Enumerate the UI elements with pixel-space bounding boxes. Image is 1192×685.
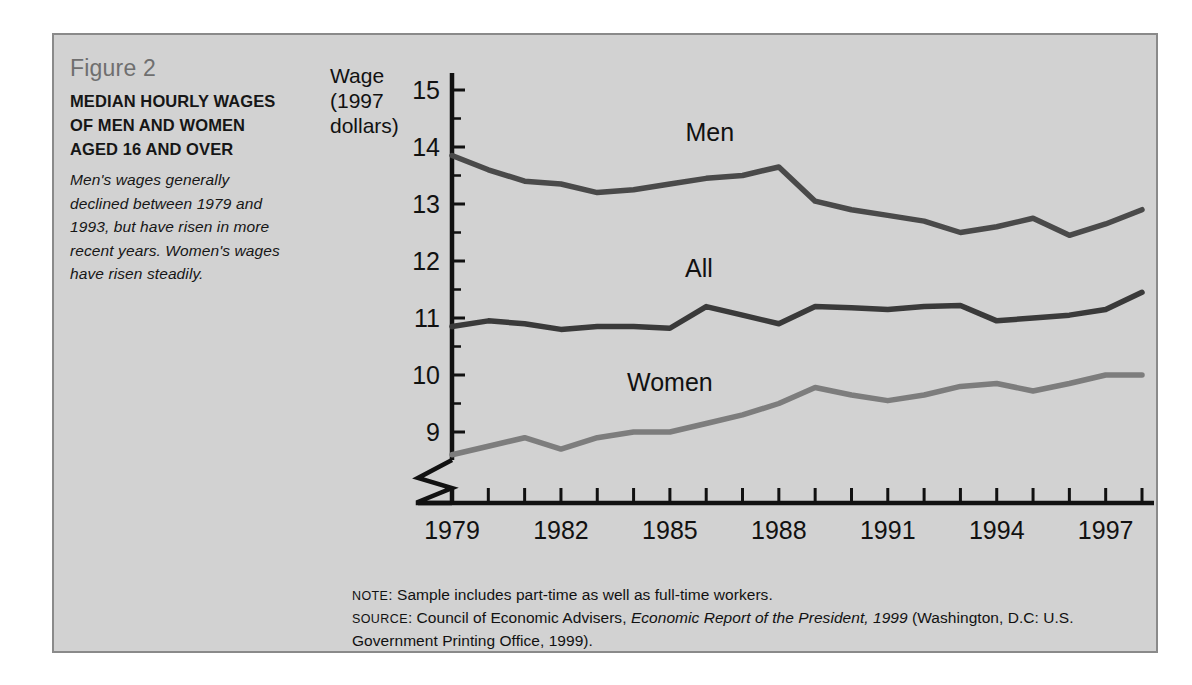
x-axis-tick-label: 1991	[860, 516, 916, 544]
chart-plot-area: 9101112131415197919821985198819911994199…	[318, 45, 1158, 565]
y-axis-tick-label: 14	[412, 133, 440, 161]
series-line-all	[452, 292, 1142, 329]
y-axis-tick-label: 9	[426, 418, 440, 446]
series-label-men: Men	[686, 118, 735, 146]
y-axis-tick-label: 12	[412, 247, 440, 275]
x-axis-tick-label: 1979	[424, 516, 480, 544]
figure-container: Figure 2 MEDIAN HOURLY WAGES OF MEN AND …	[0, 0, 1192, 685]
y-axis-title-line: (1997	[330, 89, 384, 112]
axis-break-symbol	[418, 460, 452, 503]
figure-footnotes: NOTE: Sample includes part-time as well …	[352, 584, 1142, 653]
x-axis-tick-label: 1988	[751, 516, 807, 544]
y-axis-title-line: Wage	[330, 64, 384, 87]
y-axis-tick-label: 15	[412, 76, 440, 104]
x-axis-tick-label: 1997	[1078, 516, 1134, 544]
y-axis-tick-label: 11	[414, 304, 440, 332]
series-line-men	[452, 156, 1142, 236]
note-label: NOTE	[352, 589, 388, 603]
series-line-women	[452, 375, 1142, 455]
y-axis-tick-label: 13	[412, 190, 440, 218]
figure-description: Men's wages generally declined between 1…	[70, 168, 285, 286]
source-pre-text: : Council of Economic Advisers,	[408, 609, 631, 626]
x-axis-tick-label: 1994	[969, 516, 1025, 544]
series-label-women: Women	[627, 368, 713, 396]
source-label: SOURCE	[352, 612, 408, 626]
line-chart-svg: 9101112131415197919821985198819911994199…	[318, 45, 1158, 565]
x-axis-tick-label: 1985	[642, 516, 698, 544]
x-axis-title: Year	[1108, 560, 1150, 565]
source-line: SOURCE: Council of Economic Advisers, Ec…	[352, 607, 1142, 653]
figure-title: MEDIAN HOURLY WAGES OF MEN AND WOMEN AGE…	[70, 90, 285, 162]
figure-number: Figure 2	[70, 55, 285, 81]
y-axis-tick-label: 10	[412, 361, 440, 389]
note-line: NOTE: Sample includes part-time as well …	[352, 584, 1142, 607]
source-publication-title: Economic Report of the President, 1999	[631, 609, 908, 626]
y-axis-title-line: dollars)	[330, 114, 399, 137]
note-text: : Sample includes part-time as well as f…	[388, 586, 772, 603]
figure-caption-column: Figure 2 MEDIAN HOURLY WAGES OF MEN AND …	[70, 55, 285, 286]
x-axis-tick-label: 1982	[533, 516, 589, 544]
series-label-all: All	[685, 254, 713, 282]
